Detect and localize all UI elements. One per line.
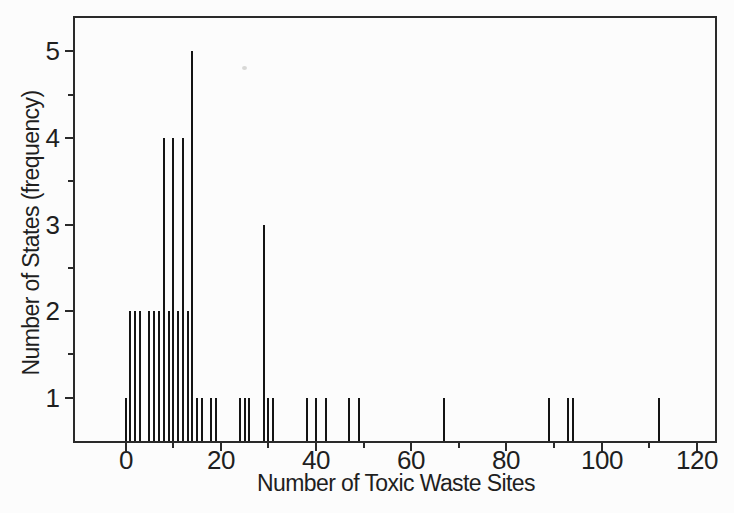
spike <box>168 311 170 441</box>
spike <box>148 311 150 441</box>
x-axis-title: Number of Toxic Waste Sites <box>257 471 535 496</box>
spike <box>158 311 160 441</box>
spike <box>315 398 317 441</box>
scan-speck <box>242 66 247 70</box>
x-minor-tick <box>363 442 365 448</box>
y-major-tick <box>65 50 73 52</box>
spike <box>548 398 550 441</box>
spike <box>163 138 165 441</box>
x-minor-tick <box>648 442 650 448</box>
y-minor-tick <box>68 353 73 355</box>
x-tick-label: 100 <box>581 447 623 473</box>
toxic-waste-spike-histogram: 020406080100120 12345 Number of Toxic Wa… <box>0 0 734 513</box>
spike <box>129 311 131 441</box>
x-minor-tick <box>553 442 555 448</box>
spike <box>201 398 203 441</box>
spike <box>325 398 327 441</box>
x-tick-label: 20 <box>207 447 235 473</box>
spike <box>196 398 198 441</box>
spike <box>267 398 269 441</box>
spike <box>348 398 350 441</box>
spike <box>153 311 155 441</box>
spike <box>272 398 274 441</box>
spike <box>263 225 265 441</box>
x-tick-label: 120 <box>676 447 718 473</box>
spike <box>134 311 136 441</box>
y-tick-label: 5 <box>0 38 60 64</box>
y-major-tick <box>65 224 73 226</box>
spike <box>125 398 127 441</box>
spike <box>182 138 184 441</box>
spike <box>244 398 246 441</box>
spike <box>191 51 193 441</box>
y-major-tick <box>65 397 73 399</box>
spike <box>187 311 189 441</box>
y-axis-title: Number of States (frequency) <box>19 91 44 376</box>
spike <box>139 311 141 441</box>
x-tick-label: 0 <box>119 447 133 473</box>
spike <box>215 398 217 441</box>
spike <box>210 398 212 441</box>
x-minor-tick <box>458 442 460 448</box>
spike <box>172 138 174 441</box>
spike <box>358 398 360 441</box>
y-major-tick <box>65 137 73 139</box>
spike <box>443 398 445 441</box>
spike <box>658 398 660 441</box>
y-major-tick <box>65 310 73 312</box>
spike <box>567 398 569 441</box>
x-minor-tick <box>267 442 269 448</box>
y-tick-label: 1 <box>0 385 60 411</box>
x-minor-tick <box>172 442 174 448</box>
spike <box>177 311 179 441</box>
spike <box>239 398 241 441</box>
y-minor-tick <box>68 180 73 182</box>
spike <box>248 398 250 441</box>
spike <box>572 398 574 441</box>
spike <box>306 398 308 441</box>
y-minor-tick <box>68 267 73 269</box>
y-minor-tick <box>68 94 73 96</box>
